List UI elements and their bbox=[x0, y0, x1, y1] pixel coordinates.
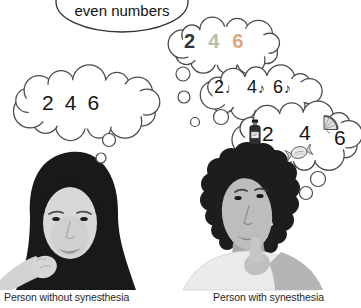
thought-trail-right-lower bbox=[300, 172, 326, 200]
object-number-4: 4 bbox=[299, 122, 311, 143]
colored-number-2: 2 bbox=[184, 31, 195, 51]
person-without-synesthesia-photo bbox=[0, 152, 136, 290]
left-caption: Person without synesthesia bbox=[4, 292, 129, 303]
note-number-6: 6 ♪ bbox=[273, 78, 291, 96]
eighth-note-icon: ♪ bbox=[258, 81, 265, 95]
object-number-2: 2 bbox=[262, 123, 274, 144]
speech-bubble-text: even numbers bbox=[56, 3, 188, 18]
colored-number-6: 6 bbox=[232, 31, 243, 51]
colored-number-4: 4 bbox=[208, 31, 219, 51]
quarter-note-icon: ♩ bbox=[225, 81, 239, 95]
object-number-6: 6 bbox=[334, 127, 346, 148]
note-number-2: 2 ♩ bbox=[214, 78, 239, 96]
plain-numbers: 2 4 6 bbox=[42, 92, 99, 113]
plain-number-6: 6 bbox=[87, 92, 99, 113]
note-numbers: 2 ♩ 4 ♪ 6 ♪ bbox=[214, 78, 291, 96]
eighth-note-icon: ♪ bbox=[284, 81, 291, 95]
note-number-4: 4 ♪ bbox=[247, 78, 265, 96]
plain-number-4: 4 bbox=[65, 92, 77, 113]
plain-number-2: 2 bbox=[42, 92, 54, 113]
synesthesia-figure: even numbers 2 4 6 2 4 6 2 ♩ 4 ♪ 6 ♪ 2 4 bbox=[0, 0, 361, 308]
sauce-bottle-icon bbox=[248, 119, 262, 146]
colored-numbers: 2 4 6 bbox=[184, 31, 243, 51]
right-caption: Person with synesthesia bbox=[213, 292, 324, 303]
